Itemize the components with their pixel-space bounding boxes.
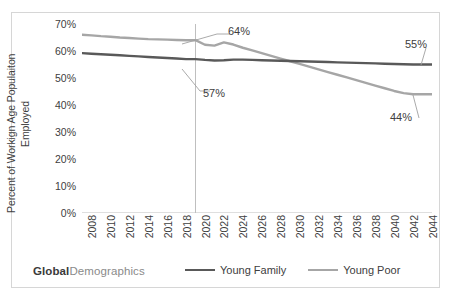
x-axis-tick-2036: 2036	[351, 215, 363, 238]
y-axis-tick-70: 70%	[32, 18, 76, 30]
chart-plot-area	[82, 24, 432, 213]
callout-leader-55	[421, 48, 426, 65]
x-axis-tick-2038: 2038	[370, 215, 382, 238]
brand-watermark: GlobalDemographics	[33, 265, 145, 277]
legend-swatch-young-poor	[308, 269, 338, 271]
x-axis-tick-2022: 2022	[218, 215, 230, 238]
x-axis-tick-2032: 2032	[313, 215, 325, 238]
x-axis-tick-2014: 2014	[143, 215, 155, 238]
x-axis-tick-2042: 2042	[408, 215, 420, 238]
x-axis-tick-2044: 2044	[427, 215, 439, 238]
x-axis-tick-2008: 2008	[86, 215, 98, 238]
chart-svg	[82, 24, 432, 213]
x-axis-tick-2020: 2020	[200, 215, 212, 238]
legend-swatch-young-family	[185, 269, 215, 271]
series-line-young-family	[82, 53, 432, 64]
y-axis-tick-60: 60%	[32, 45, 76, 57]
y-axis-tick-labels: 0%10%20%30%40%50%60%70%	[26, 0, 76, 305]
legend-item-young-family[interactable]: Young Family	[185, 264, 286, 276]
x-axis-tick-labels: 2008201020122014201620182020202220242026…	[82, 215, 432, 259]
x-axis-tick-2024: 2024	[237, 215, 249, 238]
x-axis-tick-2034: 2034	[332, 215, 344, 238]
x-axis-tick-2016: 2016	[162, 215, 174, 238]
legend-label-young-poor: Young Poor	[343, 264, 400, 276]
callout-label-57: 57%	[203, 87, 225, 99]
x-axis-tick-2010: 2010	[105, 215, 117, 238]
y-axis-tick-50: 50%	[32, 72, 76, 84]
x-axis-tick-2012: 2012	[124, 215, 136, 238]
y-axis-tick-30: 30%	[32, 126, 76, 138]
x-axis-tick-2040: 2040	[389, 215, 401, 238]
callout-leader-44	[413, 95, 419, 118]
y-axis-tick-0: 0%	[32, 207, 76, 219]
callout-label-55: 55%	[405, 38, 427, 50]
callout-label-44: 44%	[390, 111, 412, 123]
y-axis-tick-10: 10%	[32, 180, 76, 192]
callout-label-64: 64%	[228, 25, 250, 37]
brand-strong-text: Global	[33, 265, 69, 277]
brand-light-text: Demographics	[69, 265, 144, 277]
x-axis-tick-2018: 2018	[181, 215, 193, 238]
chart-legend: Young Family Young Poor	[185, 264, 400, 276]
x-axis-tick-2028: 2028	[275, 215, 287, 238]
legend-item-young-poor[interactable]: Young Poor	[308, 264, 400, 276]
legend-label-young-family: Young Family	[220, 264, 286, 276]
y-axis-tick-20: 20%	[32, 153, 76, 165]
x-axis-tick-2030: 2030	[294, 215, 306, 238]
x-axis-tick-2026: 2026	[256, 215, 268, 238]
y-axis-tick-40: 40%	[32, 99, 76, 111]
y-axis-title-line-1: Percent of Workign Age Populaiton	[5, 54, 17, 213]
